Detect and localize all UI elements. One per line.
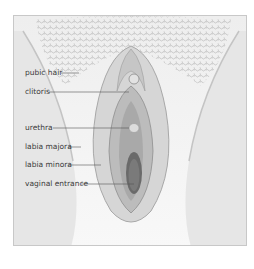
diagram-frame: pubic hair clitoris urethra labia majora… (13, 15, 247, 246)
label-labia-majora: labia majora (25, 142, 72, 151)
label-clitoris: clitoris (25, 87, 50, 96)
label-urethra: urethra (25, 123, 53, 132)
label-labia-minora: labia minora (25, 160, 72, 169)
label-pubic-hair: pubic hair (25, 68, 62, 77)
label-vaginal-entrance: vaginal entrance (25, 179, 88, 188)
